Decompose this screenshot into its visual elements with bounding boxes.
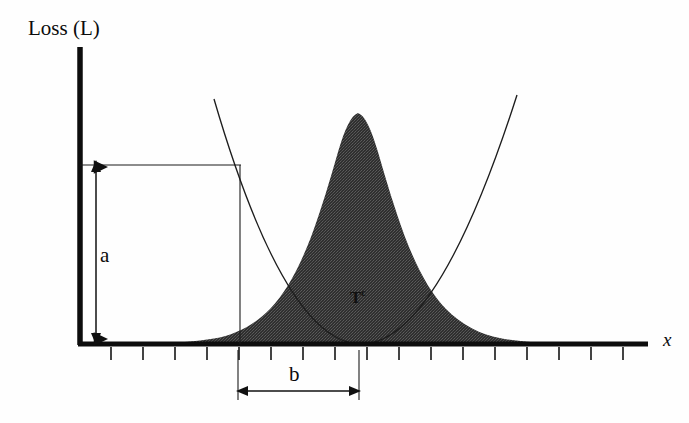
curve-annotation-base: T — [350, 288, 361, 307]
arrow-a-head-top — [91, 160, 101, 172]
loss-figure-svg — [0, 0, 689, 423]
x-axis-label: x — [663, 330, 671, 349]
measure-b-arrow — [236, 386, 361, 396]
y-axis-label: Loss (L) — [28, 18, 100, 39]
curve-annotation-superscript: c — [361, 287, 365, 298]
measure-a-label: a — [100, 245, 109, 266]
figure-root: Loss (L) x a b Tc — [0, 0, 689, 423]
bell-curve-series — [82, 113, 646, 344]
curve-annotation-label: Tc — [350, 288, 366, 306]
measure-b-label: b — [289, 364, 300, 385]
x-axis-ticks — [111, 347, 623, 360]
bell-curve-fill — [82, 113, 646, 344]
